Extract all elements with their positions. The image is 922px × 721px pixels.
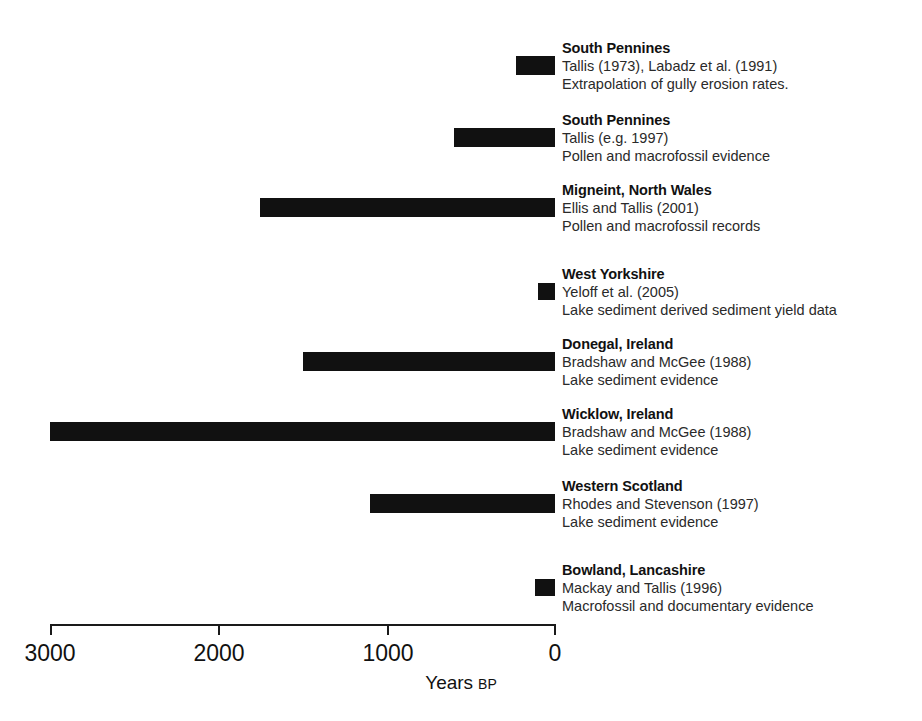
entry-reference: Bradshaw and McGee (1988) (562, 353, 920, 371)
entry-reference: Bradshaw and McGee (1988) (562, 423, 920, 441)
entry-evidence: Lake sediment evidence (562, 371, 920, 389)
entry-reference: Rhodes and Stevenson (1997) (562, 495, 920, 513)
axis-tick-label-0: 0 (505, 640, 605, 666)
entry-site-name: South Pennines (562, 40, 920, 57)
duration-bar (538, 283, 555, 300)
entry-text-block: Donegal, IrelandBradshaw and McGee (1988… (562, 336, 920, 389)
entry-text-block: South PenninesTallis (1973), Labadz et a… (562, 40, 920, 93)
duration-bar (303, 352, 556, 371)
chart-entry-row: West YorkshireYeloff et al. (2005)Lake s… (0, 266, 922, 338)
duration-bar (50, 422, 555, 441)
entry-site-name: Western Scotland (562, 478, 920, 495)
entry-text-block: Wicklow, IrelandBradshaw and McGee (1988… (562, 406, 920, 459)
duration-bar (454, 128, 555, 147)
erosion-chronology-chart: South PenninesTallis (1973), Labadz et a… (0, 0, 922, 721)
chart-entry-row: Donegal, IrelandBradshaw and McGee (1988… (0, 336, 922, 408)
entry-text-block: Bowland, LancashireMackay and Tallis (19… (562, 562, 920, 615)
entry-site-name: Donegal, Ireland (562, 336, 920, 353)
entry-evidence: Macrofossil and documentary evidence (562, 597, 920, 615)
entry-site-name: Wicklow, Ireland (562, 406, 920, 423)
entry-text-block: South PenninesTallis (e.g. 1997)Pollen a… (562, 112, 920, 165)
chart-entry-row: South PenninesTallis (e.g. 1997)Pollen a… (0, 112, 922, 184)
chart-entry-row: Western ScotlandRhodes and Stevenson (19… (0, 478, 922, 550)
duration-bar (260, 198, 555, 217)
entry-evidence: Lake sediment evidence (562, 441, 920, 459)
duration-bar (370, 494, 555, 513)
entry-evidence: Lake sediment derived sediment yield dat… (562, 301, 920, 319)
entry-site-name: West Yorkshire (562, 266, 920, 283)
entry-site-name: Bowland, Lancashire (562, 562, 920, 579)
entry-text-block: Western ScotlandRhodes and Stevenson (19… (562, 478, 920, 531)
entry-text-block: West YorkshireYeloff et al. (2005)Lake s… (562, 266, 920, 319)
entry-text-block: Migneint, North WalesEllis and Tallis (2… (562, 182, 920, 235)
axis-tick-label-2000: 2000 (169, 640, 269, 666)
chart-entry-row: Bowland, LancashireMackay and Tallis (19… (0, 562, 922, 634)
entry-reference: Mackay and Tallis (1996) (562, 579, 920, 597)
chart-entry-row: South PenninesTallis (1973), Labadz et a… (0, 40, 922, 112)
entry-evidence: Extrapolation of gully erosion rates. (562, 75, 920, 93)
entry-site-name: South Pennines (562, 112, 920, 129)
entry-reference: Yeloff et al. (2005) (562, 283, 920, 301)
entry-evidence: Lake sediment evidence (562, 513, 920, 531)
axis-title-main: Years (425, 672, 473, 693)
chart-entry-row: Migneint, North WalesEllis and Tallis (2… (0, 182, 922, 254)
axis-tick-label-3000: 3000 (0, 640, 100, 666)
duration-bar (535, 579, 555, 596)
entry-reference: Tallis (e.g. 1997) (562, 129, 920, 147)
entry-evidence: Pollen and macrofossil records (562, 217, 920, 235)
axis-title: YearsBP (0, 672, 922, 694)
chart-entry-row: Wicklow, IrelandBradshaw and McGee (1988… (0, 406, 922, 478)
axis-tick-label-1000: 1000 (338, 640, 438, 666)
entry-reference: Tallis (1973), Labadz et al. (1991) (562, 57, 920, 75)
duration-bar (516, 56, 555, 75)
entry-reference: Ellis and Tallis (2001) (562, 199, 920, 217)
entry-evidence: Pollen and macrofossil evidence (562, 147, 920, 165)
entry-site-name: Migneint, North Wales (562, 182, 920, 199)
axis-title-sub: BP (478, 676, 497, 692)
